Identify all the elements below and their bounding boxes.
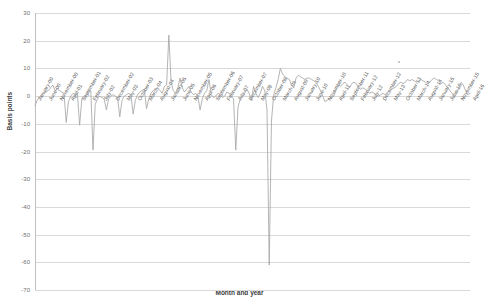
series-line	[35, 35, 470, 265]
stray-marker-dot	[398, 61, 400, 63]
